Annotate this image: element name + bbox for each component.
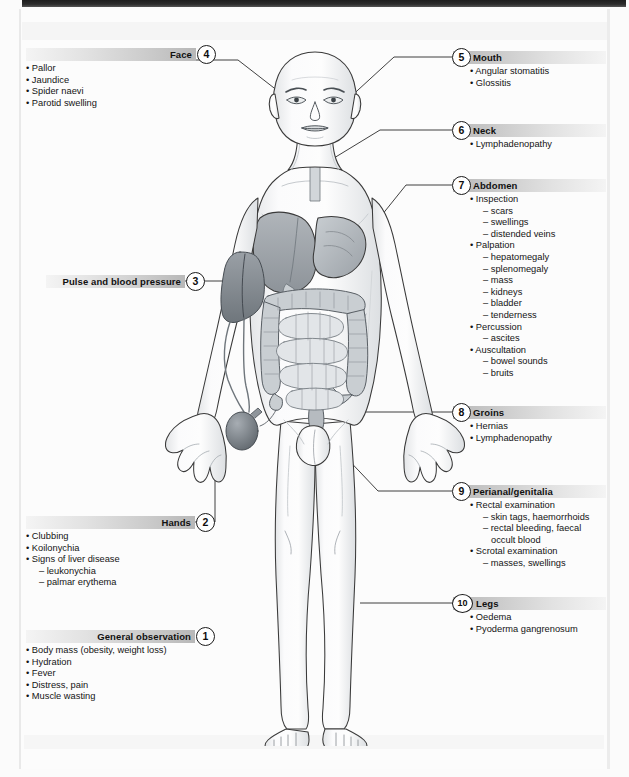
list-item: • Pyoderma gangrenosum	[453, 624, 606, 636]
list-item: – bruits	[453, 368, 606, 380]
list-item: – hepatomegaly	[453, 252, 606, 264]
callout-perianal-genitalia[interactable]: 9 Perianal/genitalia • Rectal examinatio…	[453, 485, 606, 570]
list-item: • Distress, pain	[26, 680, 195, 692]
callout-general-observation-items: • Body mass (obesity, weight loss) • Hyd…	[26, 643, 195, 703]
callout-groins-items: • Hernias • Lymphadenopathy	[453, 419, 606, 444]
list-item: – bladder	[453, 298, 606, 310]
callout-general-observation-number: 1	[196, 627, 215, 646]
callout-mouth-number: 5	[452, 48, 471, 67]
callout-neck-header: 6 Neck	[453, 124, 606, 137]
list-item: – scars	[453, 206, 606, 218]
foot-left	[323, 729, 367, 746]
cuff-tube-2	[244, 318, 250, 412]
callout-groins-number: 8	[452, 403, 471, 422]
list-item: • Glossitis	[453, 78, 606, 90]
callout-perianal-genitalia-header: 9 Perianal/genitalia	[453, 485, 606, 498]
list-item: • Clubbing	[26, 531, 195, 543]
list-item: – mass	[453, 275, 606, 287]
callout-perianal-genitalia-items: • Rectal examination – skin tags, haemor…	[453, 498, 606, 570]
list-item: – rectal bleeding, faecal	[453, 523, 606, 535]
callout-mouth-items: • Angular stomatitis • Glossitis	[453, 64, 606, 89]
callout-neck[interactable]: 6 Neck • Lymphadenopathy	[453, 124, 606, 151]
callout-face-items: • Pallor • Jaundice • Spider naevi • Par…	[26, 61, 196, 109]
callout-perianal-genitalia-number: 9	[452, 482, 471, 501]
callout-face-number: 4	[197, 45, 216, 64]
callout-neck-number: 6	[452, 121, 471, 140]
list-item: • Spider naevi	[26, 86, 196, 98]
pupil-left	[331, 98, 336, 103]
callout-abdomen-header: 7 Abdomen	[453, 179, 606, 192]
list-item: – leukonychia	[26, 566, 195, 578]
colon-descending	[347, 310, 368, 396]
list-item: • Fever	[26, 668, 195, 680]
callout-legs[interactable]: 10 Legs • Oedema • Pyoderma gangrenosum	[453, 597, 606, 635]
list-item: – bowel sounds	[453, 356, 606, 368]
callout-pulse-bp-title: Pulse and blood pressure	[62, 275, 185, 288]
callout-abdomen[interactable]: 7 Abdomen • Inspection – scars – swellin…	[453, 179, 606, 380]
callout-groins-header: 8 Groins	[453, 406, 606, 419]
foot-right	[265, 729, 309, 746]
callout-hands-number: 2	[196, 513, 215, 532]
list-item: • Hernias	[453, 421, 606, 433]
list-item: • Oedema	[453, 612, 606, 624]
head	[273, 52, 356, 146]
pupil-right	[294, 98, 299, 103]
list-item: • Auscultation	[453, 345, 606, 357]
list-item: – masses, swellings	[453, 558, 606, 570]
list-item: • Signs of liver disease	[26, 554, 195, 566]
list-item: – ascites	[453, 333, 606, 345]
list-item: • Parotid swelling	[26, 98, 196, 110]
list-item: – kidneys	[453, 287, 606, 299]
leg-left	[315, 421, 356, 729]
list-item: – swellings	[453, 217, 606, 229]
callout-pulse-bp[interactable]: Pulse and blood pressure 3	[46, 275, 185, 288]
callout-abdomen-items: • Inspection – scars – swellings – diste…	[453, 192, 606, 380]
callout-legs-header: 10 Legs	[453, 597, 606, 610]
callout-pulse-bp-header: Pulse and blood pressure 3	[46, 275, 185, 288]
list-item: • Inspection	[453, 194, 606, 206]
callout-hands[interactable]: Hands 2 • Clubbing • Koilonychia • Signs…	[26, 516, 195, 589]
list-item: • Scrotal examination	[453, 546, 606, 558]
list-item: – tenderness	[453, 310, 606, 322]
list-item: • Palpation	[453, 240, 606, 252]
list-item: • Lymphadenopathy	[453, 433, 606, 445]
list-item: – skin tags, haemorrhoids	[453, 512, 606, 524]
list-item: • Pallor	[26, 63, 196, 75]
list-item: • Koilonychia	[26, 543, 195, 555]
list-item: – splenomegaly	[453, 264, 606, 276]
list-item: occult blood	[453, 535, 606, 547]
callout-hands-items: • Clubbing • Koilonychia • Signs of live…	[26, 529, 195, 589]
callout-neck-items: • Lymphadenopathy	[453, 137, 606, 151]
list-item: • Angular stomatitis	[453, 66, 606, 78]
list-item: • Jaundice	[26, 75, 196, 87]
list-item: • Lymphadenopathy	[453, 139, 606, 151]
callout-pulse-bp-number: 3	[186, 272, 205, 291]
callout-general-observation[interactable]: General observation 1 • Body mass (obesi…	[26, 630, 195, 703]
sphygmomanometer-bulb	[226, 412, 258, 450]
list-item: – palmar erythema	[26, 577, 195, 589]
list-item: • Hydration	[26, 657, 195, 669]
list-item: • Percussion	[453, 322, 606, 334]
callout-legs-items: • Oedema • Pyoderma gangrenosum	[453, 610, 606, 635]
callout-general-observation-header: General observation 1	[26, 630, 195, 643]
callout-groins[interactable]: 8 Groins • Hernias • Lymphadenopathy	[453, 406, 606, 444]
callout-legs-number: 10	[452, 594, 473, 613]
callout-hands-title: Hands	[161, 516, 195, 529]
list-item: • Muscle wasting	[26, 691, 195, 703]
callout-face-header: Face 4	[26, 48, 196, 61]
callout-face[interactable]: Face 4 • Pallor • Jaundice • Spider naev…	[26, 48, 196, 109]
callout-abdomen-number: 7	[452, 176, 471, 195]
list-item: • Rectal examination	[453, 500, 606, 512]
callout-face-title: Face	[170, 48, 196, 61]
hand-right	[165, 414, 226, 483]
list-item: – distended veins	[453, 229, 606, 241]
leg-right	[275, 421, 315, 729]
callout-mouth[interactable]: 5 Mouth • Angular stomatitis • Glossitis	[453, 51, 606, 89]
callout-mouth-header: 5 Mouth	[453, 51, 606, 64]
callout-hands-header: Hands 2	[26, 516, 195, 529]
list-item: • Body mass (obesity, weight loss)	[26, 645, 195, 657]
callout-general-observation-title: General observation	[97, 630, 195, 643]
